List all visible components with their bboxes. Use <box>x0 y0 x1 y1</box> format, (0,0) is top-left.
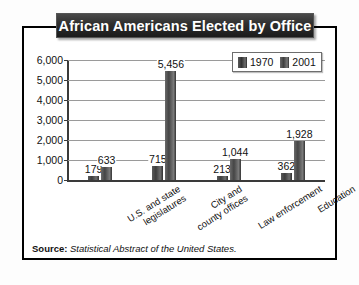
bar-2001-1: 633 <box>101 167 112 180</box>
bar-1970-3: 213 <box>217 176 228 180</box>
source-note: Source: Statistical Abstract of the Unit… <box>32 243 237 254</box>
page-title: African Americans Elected by Office <box>59 18 312 34</box>
legend-swatch-icon <box>238 57 247 68</box>
bar-2001-2: 5,456 <box>165 71 176 180</box>
y-tick-mark <box>64 120 68 121</box>
y-tick-mark <box>64 140 68 141</box>
source-label: Source: <box>32 243 67 254</box>
y-tick-label: 4,000 <box>37 94 63 106</box>
y-tick-label: 5,000 <box>37 74 63 86</box>
y-tick-label: 3,000 <box>37 114 63 126</box>
y-tick-mark <box>64 80 68 81</box>
bar-value-label: 5,456 <box>157 59 185 70</box>
legend-label: 2001 <box>292 56 315 68</box>
legend-item-1970[interactable]: 1970 <box>238 56 273 68</box>
y-tick-label: 1,000 <box>37 154 63 166</box>
bar-2001-4: 1,928 <box>294 141 305 180</box>
legend-item-2001[interactable]: 2001 <box>280 56 315 68</box>
source-title: Statistical Abstract of the United State… <box>70 243 237 254</box>
y-tick-label: 6,000 <box>37 54 63 66</box>
y-tick-label: 2,000 <box>37 134 63 146</box>
bar-1970-2: 715 <box>152 166 163 180</box>
x-axis-line <box>67 180 325 182</box>
legend-swatch-icon <box>280 57 289 68</box>
legend-label: 1970 <box>250 56 273 68</box>
bar-2001-3: 1,044 <box>230 159 241 180</box>
y-tick-mark <box>64 180 68 181</box>
gridline <box>68 100 325 101</box>
bar-value-label: 1,928 <box>285 129 313 140</box>
chart-legend: 19702001 <box>232 52 322 72</box>
y-tick-label: 0 <box>57 174 63 186</box>
bar-1970-4: 362 <box>281 173 292 180</box>
plot-area: 01,0002,0003,0004,0005,0006,000 17963371… <box>68 60 325 180</box>
chart-title-bar: African Americans Elected by Office <box>56 13 314 38</box>
y-tick-mark <box>64 60 68 61</box>
bar-value-label: 633 <box>97 155 117 166</box>
chart-figure: African Americans Elected by Office Elec… <box>0 0 359 285</box>
gridline <box>68 80 325 81</box>
y-tick-mark <box>64 100 68 101</box>
bar-1970-1: 179 <box>88 176 99 180</box>
y-tick-mark <box>64 160 68 161</box>
bar-value-label: 1,044 <box>221 147 249 158</box>
gridline <box>68 120 325 121</box>
